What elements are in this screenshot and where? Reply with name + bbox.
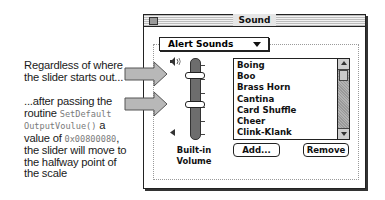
slider-tick bbox=[201, 65, 205, 66]
scroll-up-arrow-icon bbox=[341, 61, 347, 65]
list-items: Boing Boo Brass Horn Cantina Card Shuffl… bbox=[237, 60, 335, 138]
volume-label-line1: Built-in bbox=[170, 145, 218, 156]
annotation-text: routine bbox=[24, 107, 60, 119]
annotation-text: a bbox=[96, 119, 105, 131]
code-routine-name-part1: SetDefault bbox=[60, 109, 112, 119]
annotation-bottom-line2: routine SetDefault bbox=[24, 108, 126, 121]
annotation-top: Regardless of where the slider starts ou… bbox=[24, 60, 123, 83]
slider-tick bbox=[201, 121, 205, 122]
code-hex-value: 0x00800080 bbox=[65, 134, 117, 144]
window-title: Sound bbox=[233, 14, 277, 26]
list-item[interactable]: Cantina bbox=[237, 94, 335, 105]
annotation-top-line2: the slider starts out... bbox=[24, 72, 123, 84]
annotation-text: value of bbox=[24, 132, 65, 144]
scroll-thumb[interactable] bbox=[339, 70, 348, 81]
scroll-down-arrow-icon bbox=[341, 132, 347, 136]
slider-thumb-after[interactable] bbox=[185, 101, 205, 108]
sound-type-popup[interactable]: Alert Sounds bbox=[159, 37, 269, 51]
remove-button[interactable]: Remove bbox=[303, 143, 349, 157]
volume-slider-track[interactable] bbox=[190, 58, 201, 140]
slider-thumb-before[interactable] bbox=[185, 72, 205, 79]
callout-arrow-bottom-icon bbox=[124, 91, 168, 117]
speaker-loud-icon bbox=[170, 57, 182, 66]
callout-arrow-top-icon bbox=[124, 61, 168, 87]
scroll-up-button[interactable] bbox=[338, 59, 349, 70]
speaker-quiet-icon bbox=[170, 128, 177, 137]
list-item[interactable]: Cheer bbox=[237, 116, 335, 127]
annotation-bottom-line7: the scale bbox=[24, 168, 126, 180]
code-routine-name-part2: OutputVoulue() bbox=[24, 121, 96, 131]
title-bar[interactable]: Sound bbox=[144, 15, 365, 27]
add-button[interactable]: Add... bbox=[233, 143, 280, 157]
sound-window: Sound Alert Sounds Built-in Volume Boing… bbox=[143, 14, 366, 189]
list-item[interactable]: Boing bbox=[237, 60, 335, 71]
slider-tick bbox=[201, 134, 205, 135]
popup-arrow-icon bbox=[253, 42, 261, 47]
slider-tick bbox=[201, 93, 205, 94]
annotation-bottom: ...after passing the routine SetDefault … bbox=[24, 96, 126, 180]
popup-selected-value: Alert Sounds bbox=[168, 38, 233, 50]
list-item[interactable]: Brass Horn bbox=[237, 82, 335, 93]
volume-label-line2: Volume bbox=[170, 156, 218, 167]
slider-tick bbox=[201, 79, 205, 80]
list-item[interactable]: Boo bbox=[237, 71, 335, 82]
volume-label: Built-in Volume bbox=[170, 145, 218, 167]
annotation-text: , bbox=[116, 132, 119, 144]
list-item[interactable]: Card Shuffle bbox=[237, 105, 335, 116]
list-item[interactable]: Clink-Klank bbox=[237, 127, 335, 138]
annotation-top-line1: Regardless of where bbox=[24, 60, 123, 72]
alert-sounds-list[interactable]: Boing Boo Brass Horn Cantina Card Shuffl… bbox=[233, 58, 350, 140]
list-scrollbar[interactable] bbox=[337, 59, 349, 139]
annotation-bottom-line5: the slider will move to bbox=[24, 145, 126, 157]
close-box-icon[interactable] bbox=[149, 17, 158, 25]
scroll-down-button[interactable] bbox=[338, 128, 349, 139]
